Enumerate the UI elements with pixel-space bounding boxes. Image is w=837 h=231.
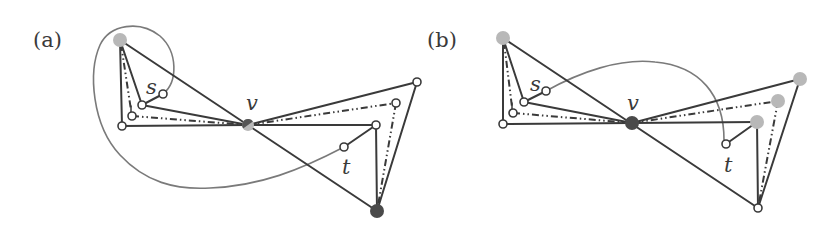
edge-b-v-midright [632,122,757,123]
node-a-top-left [113,33,127,47]
node-a-top-right [413,78,421,86]
node-b-t [722,140,730,148]
edge-a-midright-bottom [376,125,377,211]
node-b-small [509,109,517,117]
node-b-inner [520,98,528,106]
panel-b: (b) s v t [427,28,807,212]
label-a-v: v [246,91,258,115]
edge-a-small-v-dashdot [132,116,248,125]
node-b-top-left [496,31,510,45]
label-a-t: t [342,155,351,179]
edge-b-small-v-dashdot [513,113,632,123]
node-b-bottom [754,204,762,212]
node-b-v [625,116,639,130]
node-b-s [542,87,550,95]
node-a-inner [138,101,146,109]
panel-a: (a) [33,26,421,218]
node-a-small [128,112,136,120]
node-a-bottom [370,204,384,218]
panel-b-label: (b) [427,28,457,52]
label-b-t: t [724,153,733,177]
node-b-top-right [793,72,807,86]
node-a-t [340,143,348,151]
figure: (a) [0,0,837,231]
edge-a-top-inner [120,40,142,105]
label-b-v: v [627,91,639,115]
node-a-dashdot-right [392,99,400,107]
node-b-dashdot-right [771,94,785,108]
edge-b-top-inner [503,38,524,102]
node-b-corner [499,120,507,128]
label-b-s: s [530,72,541,96]
node-a-corner [118,122,126,130]
node-a-s [159,90,167,98]
edge-b-midright-bottom [757,122,758,208]
panel-a-label: (a) [33,28,62,52]
edge-a-top-small-dashdot [121,44,131,110]
edge-a-top-corner [120,40,122,126]
node-b-mid-right [750,115,764,129]
edge-a-corner-v [122,125,248,126]
edge-a-midright-t [344,125,376,147]
node-a-mid-right [372,121,380,129]
edge-b-corner-v [503,123,632,124]
label-a-s: s [146,75,157,99]
